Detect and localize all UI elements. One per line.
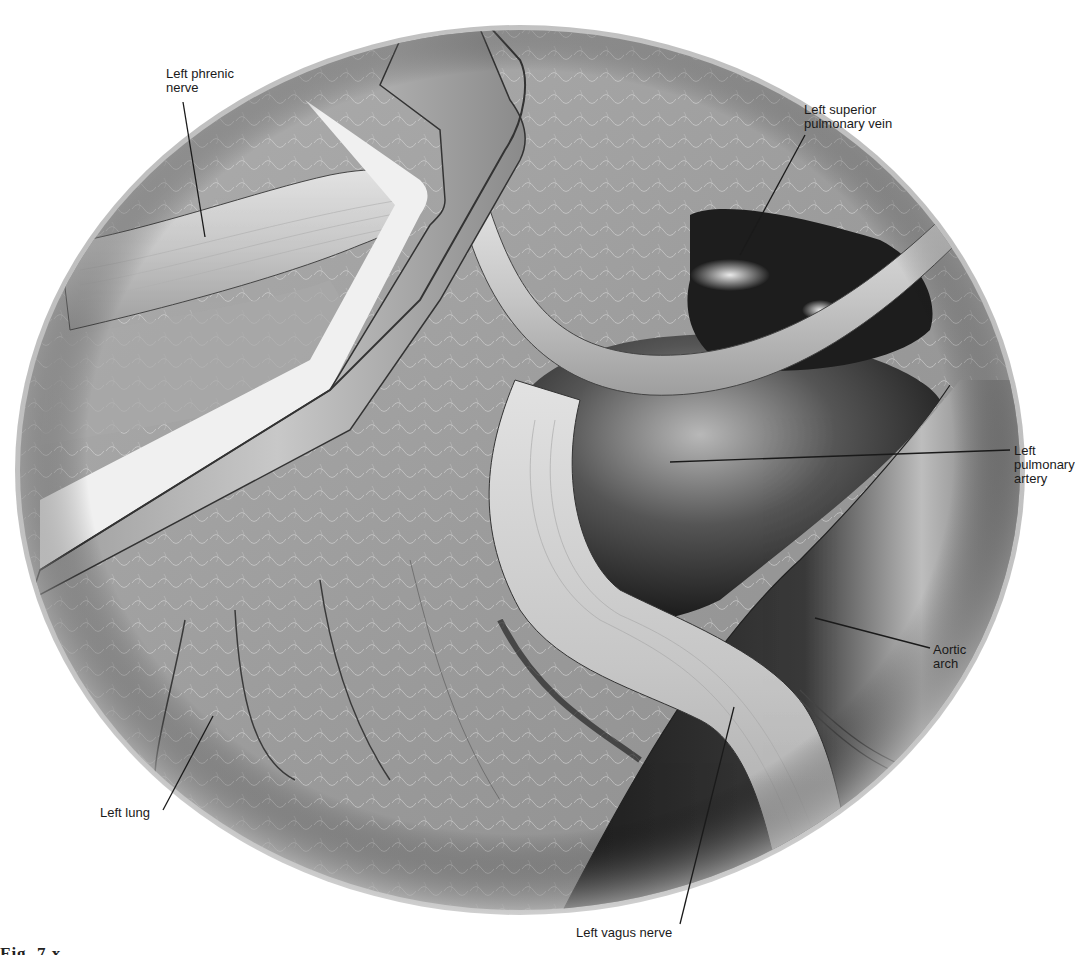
figure-caption-fragment: Fig. 7.x	[0, 944, 420, 955]
label-left-phrenic-nerve: Left phrenic nerve	[166, 67, 234, 95]
figure-caption-text: Fig. 7.x	[0, 944, 420, 955]
label-left-superior-pulmonary-vein: Left superior pulmonary vein	[804, 103, 892, 131]
label-left-lung: Left lung	[100, 806, 150, 820]
label-aortic-arch: Aortic arch	[933, 643, 966, 671]
label-left-pulmonary-artery: Left pulmonary artery	[1014, 444, 1075, 486]
label-left-vagus-nerve: Left vagus nerve	[576, 926, 672, 940]
